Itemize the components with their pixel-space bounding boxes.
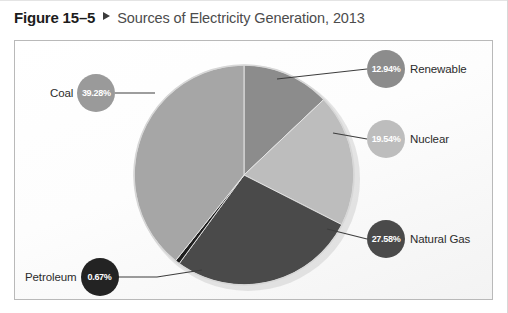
- page-top-rule: [0, 0, 508, 1]
- callout-petroleum: Petroleum 0.67%: [25, 258, 119, 296]
- callout-nuclear: 19.54% Nuclear: [367, 120, 449, 158]
- label-nuclear: Nuclear: [410, 133, 449, 145]
- label-natural-gas: Natural Gas: [410, 233, 470, 245]
- figure-title: Sources of Electricity Generation, 2013: [117, 10, 365, 26]
- callout-natural-gas: 27.58% Natural Gas: [367, 220, 470, 258]
- bubble-nuclear: 19.54%: [367, 120, 405, 158]
- figure-number: Figure 15–5: [14, 9, 95, 26]
- figure-page: Figure 15–5 Sources of Electricity Gener…: [0, 0, 508, 313]
- chart-panel: 12.94% Renewable 19.54% Nuclear 27.58% N…: [14, 40, 493, 300]
- pie-slices: [134, 65, 354, 285]
- callout-renewable: 12.94% Renewable: [367, 50, 467, 88]
- label-coal: Coal: [50, 87, 73, 99]
- label-renewable: Renewable: [410, 63, 467, 75]
- label-petroleum: Petroleum: [25, 271, 77, 283]
- callout-coal: Coal 39.28%: [50, 74, 115, 112]
- triangle-right-icon: [103, 12, 110, 20]
- bubble-coal: 39.28%: [77, 74, 115, 112]
- leader-line-renewable: [277, 69, 367, 79]
- bubble-renewable: 12.94%: [367, 50, 405, 88]
- bubble-natural-gas: 27.58%: [367, 220, 405, 258]
- figure-caption: Figure 15–5 Sources of Electricity Gener…: [14, 9, 365, 31]
- bubble-petroleum: 0.67%: [81, 258, 119, 296]
